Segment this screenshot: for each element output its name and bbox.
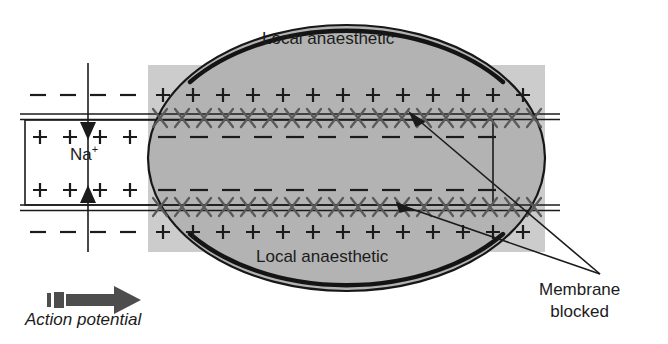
sodium-ion-charge: +	[92, 143, 98, 155]
ap-arrow-shaft	[66, 294, 117, 306]
sodium-ion-symbol: Na	[70, 145, 92, 164]
action-potential-label: Action potential	[25, 311, 141, 328]
ap-arrow-tick	[47, 293, 51, 307]
sodium-ion-label: Na+	[70, 144, 98, 163]
membrane-blocked-line-1: Membrane	[539, 279, 620, 301]
ap-arrow-block	[54, 292, 64, 308]
membrane-blocked-line-2: blocked	[539, 301, 620, 323]
local-anaesthetic-bottom-label: Local anaesthetic	[256, 248, 388, 265]
local-anaesthetic-top-label: Local anaesthetic	[262, 30, 394, 47]
figure-canvas: Local anaesthetic Local anaesthetic Na+ …	[0, 0, 668, 344]
membrane-blocked-label: Membrane blocked	[539, 279, 620, 323]
sodium-arrowhead-up	[80, 185, 96, 203]
